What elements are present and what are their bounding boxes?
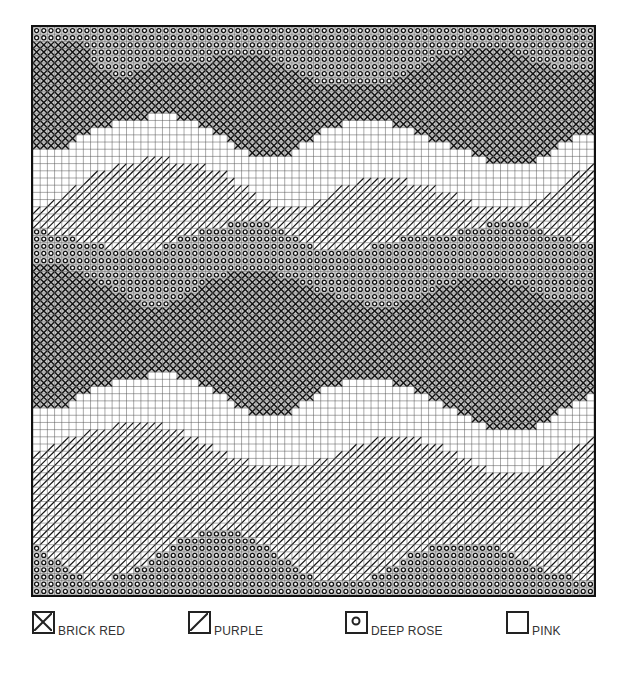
chart-grid-canvas	[33, 27, 594, 595]
legend-label: PURPLE	[214, 624, 263, 638]
legend-label: PINK	[532, 624, 561, 638]
legend-item-deep-rose: DEEP ROSE	[345, 611, 443, 634]
slash-symbol-icon	[188, 611, 211, 634]
blank-symbol-icon	[506, 611, 529, 634]
legend-label: BRICK RED	[58, 624, 125, 638]
legend-item-brick-red: BRICK RED	[32, 611, 125, 634]
stitch-chart-grid	[31, 25, 596, 597]
cross-symbol-icon	[32, 611, 55, 634]
circle-symbol-icon	[345, 611, 368, 634]
legend-label: DEEP ROSE	[371, 624, 443, 638]
legend: BRICK RED PURPLE DEEP ROSE PINK	[0, 611, 624, 651]
legend-item-pink: PINK	[506, 611, 561, 634]
legend-item-purple: PURPLE	[188, 611, 263, 634]
